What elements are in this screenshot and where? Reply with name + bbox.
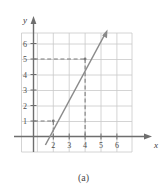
y-tick-label-5: 5 — [23, 55, 27, 64]
y-axis-label: y — [22, 15, 27, 25]
figure-container: 6 5 4 3 2 1 2 3 4 5 6 y x (a) — [0, 0, 167, 185]
data-line — [45, 30, 107, 146]
y-tick-label-1: 1 — [23, 117, 27, 126]
x-tick-label-3: 3 — [67, 141, 71, 150]
x-tick-label-4: 4 — [83, 141, 87, 150]
x-tick-label-5: 5 — [99, 141, 103, 150]
y-tick-label-6: 6 — [23, 40, 27, 49]
grid-lines — [22, 33, 133, 152]
figure-caption: (a) — [0, 172, 167, 183]
point-4-5 — [84, 58, 87, 61]
y-tick-label-4: 4 — [23, 71, 27, 80]
x-tick-label-2: 2 — [51, 141, 55, 150]
x-axis — [14, 134, 152, 140]
y-axis — [31, 16, 37, 152]
dashed-guides — [34, 59, 85, 136]
x-axis-label: x — [153, 140, 158, 150]
y-tick-label-2: 2 — [23, 102, 27, 111]
x-tick-label-6: 6 — [115, 141, 119, 150]
coordinate-plot: 6 5 4 3 2 1 2 3 4 5 6 y x — [0, 0, 167, 185]
point-2-1 — [52, 120, 55, 123]
y-tick-label-3: 3 — [23, 86, 27, 95]
